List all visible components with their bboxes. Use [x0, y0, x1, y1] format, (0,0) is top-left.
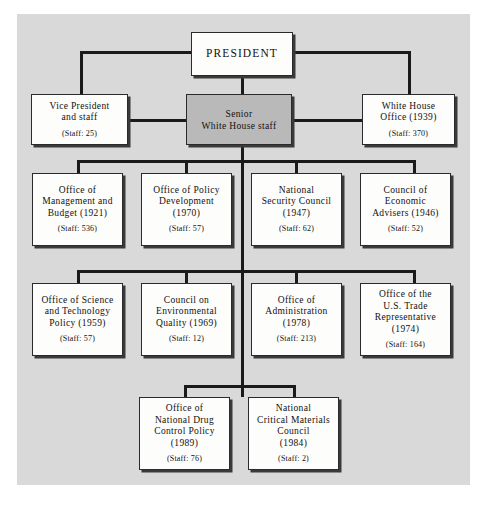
connector-row2-tick-3: [295, 160, 298, 173]
connector-row2-tick-1: [77, 160, 80, 173]
node-us-trade-representative-title: Office of theU.S. TradeRepresentative(19…: [375, 289, 436, 335]
node-office-policy-development[interactable]: Office of PolicyDevelopment(1970) (Staff…: [141, 173, 232, 246]
connector-president-senior: [241, 76, 244, 94]
node-office-administration[interactable]: Office ofAdministration(1978) (Staff: 21…: [251, 283, 342, 356]
connector-who-drop: [408, 51, 411, 95]
node-council-economic-advisers-title: Council ofEconomicAdvisers (1946): [372, 185, 439, 220]
node-office-administration-title: Office ofAdministration(1978): [265, 295, 327, 330]
node-senior-white-house-staff[interactable]: SeniorWhite House staff: [186, 94, 292, 145]
node-president[interactable]: PRESIDENT: [191, 32, 293, 76]
node-vice-president[interactable]: Vice Presidentand staff (Staff: 25): [31, 94, 128, 145]
connector-row3-bus: [77, 270, 416, 273]
connector-row2-bus: [77, 160, 416, 163]
connector-row3-tick-4: [413, 270, 416, 283]
node-council-economic-advisers[interactable]: Council ofEconomicAdvisers (1946) (Staff…: [360, 173, 451, 246]
node-vice-president-staff: (Staff: 25): [62, 129, 97, 139]
connector-row4-tick-1: [184, 385, 187, 397]
node-ostp[interactable]: Office of Scienceand TechnologyPolicy (1…: [32, 283, 123, 356]
node-council-environmental-quality-staff: (Staff: 12): [169, 334, 204, 344]
node-ondcp[interactable]: Office ofNational DrugControl Policy(198…: [139, 397, 230, 470]
node-omb-staff: (Staff: 536): [58, 224, 97, 234]
node-national-critical-materials-council-title: NationalCritical MaterialsCouncil(1984): [257, 403, 330, 449]
node-senior-white-house-staff-title: SeniorWhite House staff: [202, 108, 277, 132]
node-white-house-office-title: White HouseOffice (1939): [380, 101, 436, 124]
node-office-policy-development-title: Office of PolicyDevelopment(1970): [153, 185, 220, 220]
node-national-security-council-title: NationalSecurity Council(1947): [262, 185, 332, 220]
node-white-house-office-staff: (Staff: 370): [389, 129, 428, 139]
connector-president-left: [80, 51, 192, 54]
node-national-security-council-staff: (Staff: 62): [279, 224, 314, 234]
node-omb-title: Office ofManagement andBudget (1921): [42, 185, 113, 220]
connector-row4-tick-2: [293, 385, 296, 397]
node-national-critical-materials-council-staff: (Staff: 2): [278, 454, 309, 464]
node-office-policy-development-staff: (Staff: 57): [169, 224, 204, 234]
node-president-title: PRESIDENT: [206, 48, 278, 60]
connector-row3-tick-3: [295, 270, 298, 283]
node-us-trade-representative-staff: (Staff: 164): [386, 340, 425, 350]
connector-vp-drop: [80, 51, 83, 95]
connector-row3-tick-1: [77, 270, 80, 283]
connector-row4-bus: [184, 385, 296, 388]
node-national-security-council[interactable]: NationalSecurity Council(1947) (Staff: 6…: [251, 173, 342, 246]
node-council-economic-advisers-staff: (Staff: 52): [388, 224, 423, 234]
node-ostp-title: Office of Scienceand TechnologyPolicy (1…: [41, 295, 113, 330]
org-chart: PRESIDENT Vice Presidentand staff (Staff…: [0, 0, 486, 506]
node-office-administration-staff: (Staff: 213): [277, 334, 316, 344]
node-council-environmental-quality[interactable]: Council onEnvironmentalQuality (1969) (S…: [141, 283, 232, 356]
node-ostp-staff: (Staff: 57): [60, 334, 95, 344]
node-omb[interactable]: Office ofManagement andBudget (1921) (St…: [32, 173, 123, 246]
node-vice-president-title: Vice Presidentand staff: [50, 101, 110, 124]
node-white-house-office[interactable]: White HouseOffice (1939) (Staff: 370): [362, 94, 455, 145]
node-ondcp-title: Office ofNational DrugControl Policy(198…: [154, 403, 215, 449]
node-ondcp-staff: (Staff: 76): [167, 454, 202, 464]
connector-row3-tick-2: [185, 270, 188, 283]
node-us-trade-representative[interactable]: Office of theU.S. TradeRepresentative(19…: [360, 283, 451, 356]
node-national-critical-materials-council[interactable]: NationalCritical MaterialsCouncil(1984) …: [248, 397, 339, 470]
connector-senior-vp: [128, 119, 190, 122]
connector-president-right: [292, 51, 411, 54]
connector-row2-tick-4: [413, 160, 416, 173]
connector-row2-tick-2: [185, 160, 188, 173]
connector-senior-who: [292, 119, 362, 122]
node-council-environmental-quality-title: Council onEnvironmentalQuality (1969): [156, 295, 217, 330]
